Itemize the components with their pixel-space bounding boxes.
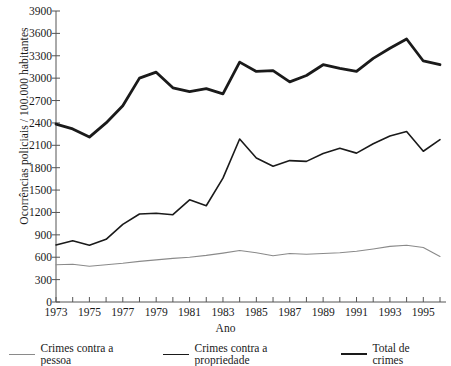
- chart-legend: Crimes contra a pessoa Crimes contra a p…: [0, 344, 451, 364]
- legend-item-pessoa: Crimes contra a pessoa: [0, 342, 154, 366]
- series-line-0: [56, 245, 440, 266]
- legend-label-pessoa: Crimes contra a pessoa: [41, 342, 146, 366]
- legend-swatch-total: [341, 353, 367, 355]
- series-line-1: [56, 132, 440, 246]
- legend-swatch-pessoa: [9, 354, 35, 355]
- legend-label-propriedade: Crimes contra a propriedade: [195, 342, 323, 366]
- series-line-2: [56, 39, 440, 137]
- legend-item-total: Total de crimes: [332, 342, 451, 366]
- legend-label-total: Total de crimes: [373, 342, 442, 366]
- legend-swatch-propriedade: [163, 354, 189, 355]
- legend-item-propriedade: Crimes contra a propriedade: [154, 342, 332, 366]
